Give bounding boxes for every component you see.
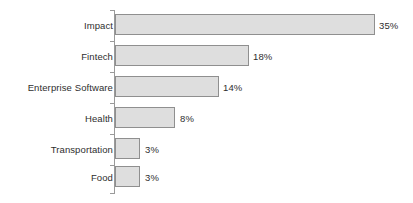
value-label: 35% xyxy=(379,19,398,30)
category-label: Health xyxy=(85,112,113,123)
value-label: 14% xyxy=(223,81,242,92)
bar-enterprise-software[interactable] xyxy=(115,76,219,97)
axis-tick xyxy=(110,134,114,135)
axis-tick xyxy=(110,193,114,194)
bar-chart: Impact 35% Fintech 18% Enterprise Softwa… xyxy=(0,0,413,203)
category-label: Food xyxy=(91,171,113,182)
bar-health[interactable] xyxy=(115,107,175,128)
category-label: Transportation xyxy=(51,143,113,154)
bar-transportation[interactable] xyxy=(115,138,140,159)
bar-row: Impact 35% xyxy=(0,14,413,35)
axis-tick xyxy=(110,41,114,42)
axis-tick xyxy=(110,103,114,104)
category-label: Enterprise Software xyxy=(28,81,113,92)
bar-row: Fintech 18% xyxy=(0,45,413,66)
bar-impact[interactable] xyxy=(115,14,375,35)
bar-fintech[interactable] xyxy=(115,45,249,66)
value-label: 3% xyxy=(145,143,159,154)
category-label: Impact xyxy=(84,19,113,30)
bar-row: Transportation 3% xyxy=(0,138,413,159)
category-label: Fintech xyxy=(81,50,113,61)
bar-row: Enterprise Software 14% xyxy=(0,76,413,97)
bar-row: Food 3% xyxy=(0,166,413,187)
bar-food[interactable] xyxy=(115,166,140,187)
axis-tick xyxy=(110,72,114,73)
value-label: 8% xyxy=(180,112,194,123)
value-label: 3% xyxy=(145,171,159,182)
axis-tick xyxy=(110,10,114,11)
bar-row: Health 8% xyxy=(0,107,413,128)
value-label: 18% xyxy=(253,50,272,61)
